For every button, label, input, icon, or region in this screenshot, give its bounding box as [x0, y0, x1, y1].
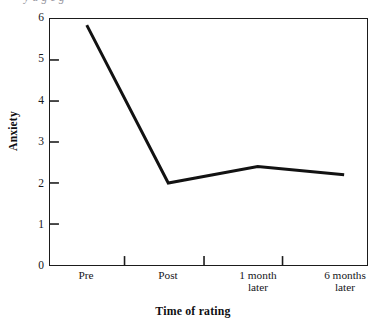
y-tick-label-4: 4	[26, 95, 44, 107]
y-tick-label-1: 1	[26, 219, 44, 231]
y-axis-tick-marks	[50, 60, 59, 224]
x-tick-label-1-month-later: 1 month later	[223, 269, 293, 293]
x-tick-label-post: Post	[133, 269, 203, 281]
anxiety-data-line	[87, 25, 344, 183]
x-tick-label-pre: Pre	[51, 269, 121, 281]
plot-area	[49, 18, 368, 266]
x-axis-tick-labels: Pre Post 1 month later 6 months later	[0, 269, 386, 301]
y-tick-label-6: 6	[26, 12, 44, 24]
x-tick-label-6-months-later: 6 months later	[308, 269, 382, 293]
y-tick-label-5: 5	[26, 53, 44, 65]
x-axis-tick-marks	[125, 256, 283, 265]
y-tick-label-3: 3	[26, 136, 44, 148]
x-axis-title: Time of rating	[0, 304, 386, 319]
plot-canvas	[50, 19, 367, 265]
y-axis-title: Anxiety	[7, 91, 19, 171]
line-chart-figure: Anxiety 6 5 4 3 2 1 0 Pre Pos	[0, 0, 386, 325]
y-tick-label-2: 2	[26, 178, 44, 190]
